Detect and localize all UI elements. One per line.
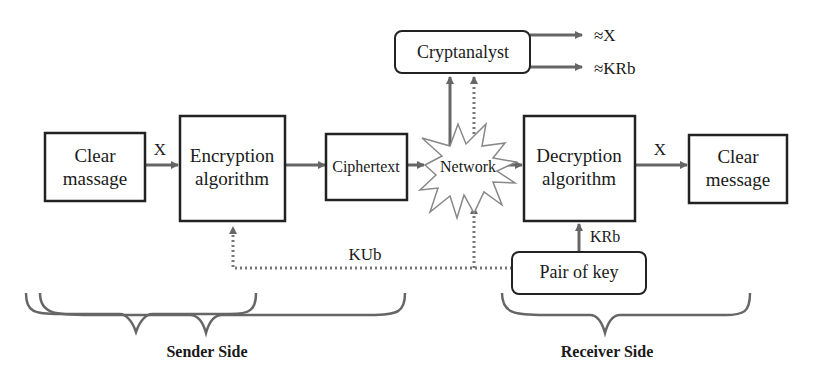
clear-message-line2: message <box>706 169 770 190</box>
krb-label: KRb <box>590 228 620 245</box>
encryption-line2: algorithm <box>195 168 269 189</box>
clear-massage-line2: massage <box>63 168 127 189</box>
decryption-line2: algorithm <box>542 168 616 189</box>
kub-label: KUb <box>348 245 381 264</box>
cryptanalyst-box: Cryptanalyst <box>395 31 530 73</box>
receiver-side-label: Receiver Side <box>561 343 654 360</box>
clear-massage-line1: Clear <box>74 145 116 166</box>
x-input-label: X <box>154 140 166 159</box>
x-output-label: X <box>654 140 666 159</box>
ciphertext-box: Ciphertext <box>326 134 407 200</box>
clear-message-line1: Clear <box>717 146 759 167</box>
ciphertext-label: Ciphertext <box>332 158 400 176</box>
encryption-algorithm-box: Encryption algorithm <box>180 116 285 221</box>
approx-x-label: ≈X <box>594 26 616 45</box>
sender-side-label: Sender Side <box>166 343 247 360</box>
network-starburst: Network <box>420 124 516 218</box>
cryptanalyst-label: Cryptanalyst <box>417 42 509 62</box>
network-label: Network <box>440 158 496 175</box>
clear-message-box: Clear message <box>689 135 787 203</box>
clear-massage-box: Clear massage <box>45 133 145 201</box>
encryption-line1: Encryption <box>190 145 275 166</box>
pair-of-key-box: Pair of key <box>512 252 646 294</box>
approx-krb-label: ≈KRb <box>594 59 635 78</box>
decryption-algorithm-box: Decryption algorithm <box>524 116 635 221</box>
pair-of-key-label: Pair of key <box>540 262 619 282</box>
encryption-diagram: Clear massage X Encryption algorithm Cip… <box>0 0 831 386</box>
decryption-line1: Decryption <box>536 145 622 166</box>
receiver-side-brace <box>502 293 750 333</box>
